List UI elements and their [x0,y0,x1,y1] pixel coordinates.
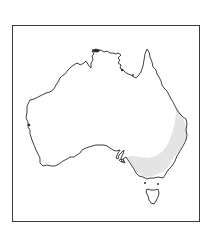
king-island [144,182,146,184]
tasmania [146,189,159,204]
groote-eylandt [121,69,123,71]
flinders-island [157,183,159,185]
mornington-island [132,74,134,76]
melville-island [92,49,100,52]
distribution-area [127,108,187,177]
shark-bay-island [28,124,31,127]
australia-map [0,0,209,226]
